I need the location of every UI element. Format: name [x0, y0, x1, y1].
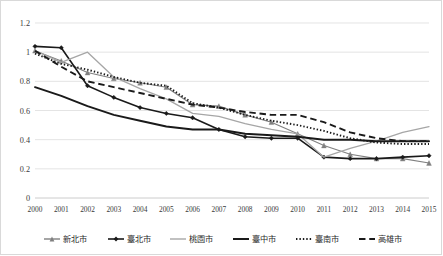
legend-item-桃園市[interactable]: 桃園市 [170, 234, 213, 244]
x-axis-tick-label: 2000 [28, 205, 43, 214]
x-axis-tick-label: 2010 [290, 205, 305, 214]
x-axis-tick-label: 2011 [317, 205, 332, 214]
x-axis-tick-label: 2001 [54, 205, 69, 214]
series-marker-臺北市 [427, 154, 431, 158]
y-axis-tick-label: 0 [26, 194, 30, 203]
y-axis-tick-label: 0.6 [20, 107, 30, 116]
y-axis-tick-label: 0.4 [20, 136, 30, 145]
x-axis-tick-label: 2008 [238, 205, 253, 214]
series-marker-臺北市 [348, 156, 352, 160]
chart-container: 00.20.40.60.811.220002001200220032004200… [0, 0, 442, 255]
y-axis-tick-label: 0.2 [20, 165, 30, 174]
x-axis-tick-label: 2002 [80, 205, 95, 214]
y-axis-tick-label: 0.8 [20, 77, 30, 86]
series-line-高雄市 [35, 51, 429, 141]
legend-item-臺北市[interactable]: 臺北市 [108, 234, 151, 244]
legend-marker-臺北市 [114, 237, 119, 242]
legend-item-臺中市[interactable]: 臺中市 [233, 234, 276, 244]
x-axis-tick-label: 2003 [106, 205, 121, 214]
x-axis-tick-label: 2013 [369, 205, 384, 214]
x-axis-tick-label: 2009 [264, 205, 279, 214]
x-axis-tick-label: 2004 [133, 205, 148, 214]
legend-label-臺中市: 臺中市 [252, 234, 276, 244]
x-axis-tick-label: 2014 [395, 205, 410, 214]
legend-label-臺南市: 臺南市 [315, 234, 339, 244]
legend-item-高雄市[interactable]: 高雄市 [359, 234, 402, 244]
x-axis-tick-label: 2006 [185, 205, 200, 214]
series-marker-臺北市 [164, 111, 168, 115]
y-axis-tick-label: 1.2 [20, 19, 30, 28]
series-line-臺南市 [35, 54, 429, 144]
series-marker-臺北市 [138, 105, 142, 109]
legend-item-臺南市[interactable]: 臺南市 [296, 234, 339, 244]
x-axis-tick-label: 2007 [211, 205, 226, 214]
x-axis-tick-label: 2005 [159, 205, 174, 214]
x-axis-tick-label: 2015 [422, 205, 437, 214]
series-line-新北市 [35, 51, 429, 163]
line-chart: 00.20.40.60.811.220002001200220032004200… [1, 1, 443, 256]
series-marker-臺北市 [33, 44, 37, 48]
y-axis-tick-label: 1 [26, 48, 30, 57]
series-marker-臺北市 [243, 135, 247, 139]
legend-label-桃園市: 桃園市 [189, 234, 213, 244]
legend-label-新北市: 新北市 [63, 234, 87, 244]
x-axis-tick-label: 2012 [343, 205, 358, 214]
legend-item-新北市[interactable]: 新北市 [44, 234, 87, 244]
legend-label-臺北市: 臺北市 [127, 234, 151, 244]
legend-label-高雄市: 高雄市 [378, 234, 402, 244]
